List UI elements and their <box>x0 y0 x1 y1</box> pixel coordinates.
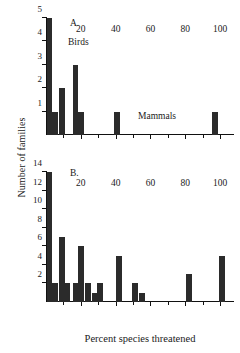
y-axis-label: Number of families <box>16 88 27 228</box>
x-minor-tick-a-10 <box>63 135 64 138</box>
x-tick-label-a-80: 80 <box>181 24 191 151</box>
x-minor-tick-a-50 <box>133 135 134 138</box>
bar-b-101 <box>219 256 225 302</box>
x-minor-tick-b-90 <box>203 302 204 305</box>
y-tick-label-a-3: 3 <box>38 51 43 60</box>
x-axis-label: Percent species threatened <box>40 333 240 344</box>
bar-b-42 <box>116 256 122 302</box>
bar-b-24 <box>85 283 91 302</box>
bar-a-9 <box>59 88 65 135</box>
x-minor-tick-a-30 <box>98 135 99 138</box>
panel-b-mammals: 246810121420406080100 B. <box>46 172 234 302</box>
panel-a-letter: A. <box>70 18 79 28</box>
bar-a-5 <box>52 112 58 135</box>
y-tick-label-b-12: 12 <box>33 177 42 186</box>
x-tick-label-a-60: 60 <box>146 24 156 151</box>
x-minor-tick-a-90 <box>203 135 204 138</box>
panel-a-series-label-birds: Birds <box>68 37 89 47</box>
y-tick-label-a-2: 2 <box>38 75 43 84</box>
plot-area-b: 246810121420406080100 <box>46 172 234 302</box>
y-tick-label-b-14: 14 <box>33 159 42 168</box>
x-minor-tick-a-70 <box>168 135 169 138</box>
bar-a-20 <box>78 112 84 135</box>
y-tick-label-b-4: 4 <box>38 251 43 260</box>
y-tick-label-b-6: 6 <box>38 233 43 242</box>
bar-a-97 <box>212 112 218 135</box>
y-tick-label-a-5: 5 <box>38 5 43 14</box>
panel-a-birds: 1234520406080100 A. Birds Mammals <box>46 18 234 135</box>
x-minor-tick-b-50 <box>133 302 134 305</box>
x-minor-tick-b-30 <box>98 302 99 305</box>
bar-b-31 <box>97 283 103 302</box>
bar-b-55 <box>139 293 145 302</box>
bar-a-41 <box>114 112 120 135</box>
bar-b-20 <box>78 246 84 302</box>
figure-threatened-species-histograms: Number of families Percent species threa… <box>0 0 240 353</box>
x-tick-label-b-60: 60 <box>146 178 156 318</box>
y-tick-label-a-4: 4 <box>38 28 43 37</box>
y-tick-label-b-10: 10 <box>33 196 42 205</box>
y-tick-label-b-8: 8 <box>38 214 43 223</box>
bar-b-51 <box>132 283 138 302</box>
bar-b-82 <box>186 274 192 302</box>
y-tick-label-b-2: 2 <box>38 270 43 279</box>
bar-b-12 <box>64 283 70 302</box>
bar-b-5 <box>52 283 58 302</box>
x-minor-tick-b-10 <box>63 302 64 305</box>
panel-b-letter: B. <box>70 168 79 178</box>
y-tick-label-a-1: 1 <box>38 98 43 107</box>
panel-a-series-label-mammals: Mammals <box>138 111 176 121</box>
x-minor-tick-b-70 <box>168 302 169 305</box>
